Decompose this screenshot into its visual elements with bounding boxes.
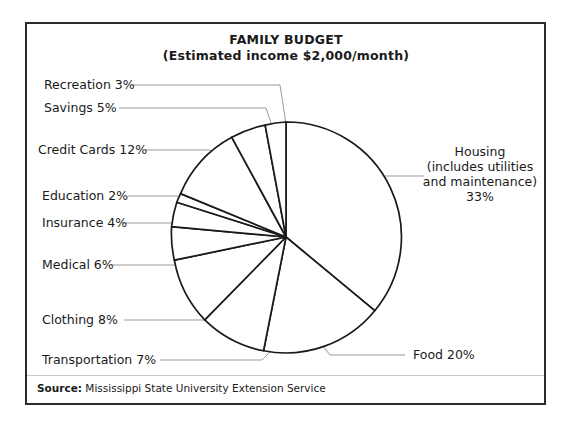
slice-label-housing-line2: (includes utilities [427, 159, 533, 174]
slice-label-insurance: Insurance 4% [42, 215, 127, 230]
slice-label-housing-line4: 33% [466, 189, 494, 204]
slice-label-housing-line1: Housing [455, 144, 506, 159]
source-label: Source: [37, 382, 82, 394]
slice-label-credit-cards: Credit Cards 12% [38, 142, 147, 157]
chart-root: FAMILY BUDGET (Estimated income $2,000/m… [0, 0, 572, 428]
source-attribution: Source: Mississippi State University Ext… [37, 381, 326, 395]
slice-label-clothing: Clothing 8% [42, 312, 118, 327]
slice-label-food: Food 20% [413, 347, 475, 362]
source-divider [27, 375, 544, 376]
source-text: Mississippi State University Extension S… [85, 382, 325, 394]
slice-label-savings: Savings 5% [44, 100, 117, 115]
slice-label-transportation: Transportation 7% [42, 352, 156, 367]
pie-slices [171, 122, 401, 353]
slice-label-education: Education 2% [42, 188, 128, 203]
slice-label-recreation: Recreation 3% [44, 77, 135, 92]
slice-label-medical: Medical 6% [42, 257, 114, 272]
slice-label-housing-line3: and maintenance) [423, 174, 537, 189]
slice-label-housing: Housing (includes utilities and maintena… [420, 144, 540, 204]
leader-recreation-tick [280, 85, 286, 124]
